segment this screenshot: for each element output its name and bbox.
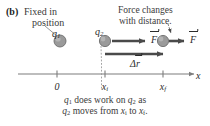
tick-label-xf: xf bbox=[160, 81, 166, 93]
tick-label-origin: 0 bbox=[55, 81, 60, 92]
charge-q2-subscript: 2 bbox=[100, 30, 103, 37]
caption-line-1: q1 does work on q2 as bbox=[64, 95, 146, 105]
force-changes-line1: Force changes bbox=[118, 5, 173, 15]
force-final-symbol: F bbox=[190, 34, 196, 45]
x-axis bbox=[18, 71, 194, 78]
panel-label: (b) bbox=[6, 6, 18, 17]
force-changes-annotation: Force changes with distance. bbox=[118, 5, 173, 26]
tick-xi-subscript: i bbox=[106, 85, 108, 92]
force-final-label: F bbox=[190, 34, 196, 45]
force-initial-label: F bbox=[151, 34, 157, 45]
caption-text-moves-from: moves from bbox=[70, 106, 120, 116]
charge-q1-label: q1 bbox=[52, 28, 60, 40]
caption-text-does-work-on: does work on bbox=[72, 95, 128, 105]
displacement-vector-label: Δr bbox=[130, 58, 140, 69]
caption-line-2: q2 moves from xi to xf. bbox=[62, 106, 147, 117]
fixed-position-line1: Fixed in bbox=[24, 6, 57, 17]
caption-text-period: . bbox=[145, 106, 147, 116]
tick-xf-subscript: f bbox=[164, 85, 166, 92]
force-initial-symbol: F bbox=[151, 34, 157, 45]
charge-q1-subscript: 1 bbox=[57, 32, 60, 39]
physics-figure-panel-b: (b) Fixed in position Force changes with… bbox=[0, 0, 210, 126]
fixed-position-line2: position bbox=[24, 17, 64, 28]
caption-text-to: to bbox=[127, 106, 139, 116]
force-changes-line2: with distance. bbox=[118, 16, 173, 27]
charge-q2-final-circle bbox=[157, 35, 168, 46]
x-axis-label: x bbox=[196, 70, 200, 81]
fixed-position-annotation: Fixed in position bbox=[24, 6, 64, 28]
tick-label-xi: xi bbox=[102, 81, 108, 93]
charge-q2-label: q2 bbox=[95, 26, 103, 38]
displacement-symbol: r bbox=[136, 58, 140, 69]
figure-caption: q1 does work on q2 as q2 moves from xi t… bbox=[62, 95, 147, 116]
caption-text-as: as bbox=[136, 95, 146, 105]
